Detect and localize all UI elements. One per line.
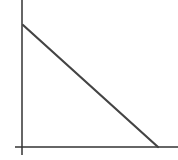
- line-graph: [0, 0, 178, 160]
- diagram-canvas: [0, 0, 178, 160]
- decreasing-line: [23, 25, 158, 147]
